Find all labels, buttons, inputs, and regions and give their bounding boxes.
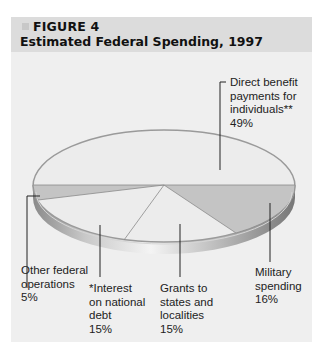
label-other-federal: Other federal operations 5% xyxy=(21,264,88,305)
label-grants: Grants to states and localities 15% xyxy=(160,282,213,336)
label-direct-benefit: Direct benefit payments for individuals*… xyxy=(230,76,298,130)
label-interest: *Interest on national debt 15% xyxy=(89,282,145,336)
label-military: Military spending 16% xyxy=(255,266,302,307)
